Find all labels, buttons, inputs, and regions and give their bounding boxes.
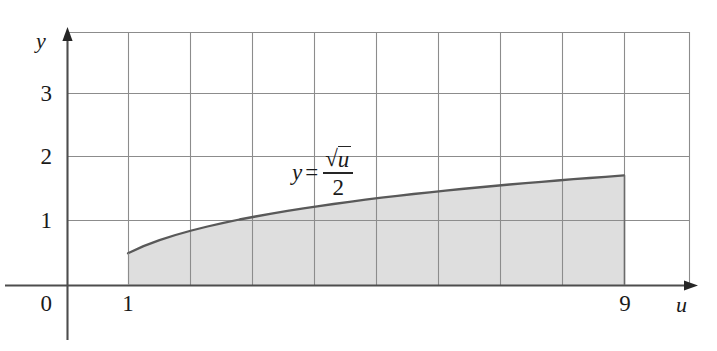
x-tick-1: 1	[113, 292, 143, 315]
y-tick-0: 0	[26, 292, 52, 315]
figure-canvas: y 3 2 1 0 1 9 u y = √ u 2	[0, 0, 717, 351]
y-tick-3: 3	[26, 82, 52, 105]
y-axis-arrowhead	[62, 27, 72, 41]
x-tick-9: 9	[610, 292, 640, 315]
y-axis-label: y	[36, 30, 46, 52]
y-tick-2: 2	[26, 145, 52, 168]
radical-group: √ u	[325, 146, 351, 171]
x-axis-arrowhead	[684, 280, 698, 290]
y-tick-1: 1	[26, 209, 52, 232]
equation-numerator: √ u	[323, 146, 353, 172]
equation-annotation: y = √ u 2	[292, 146, 353, 199]
equation-denominator: 2	[331, 174, 347, 199]
radical-radicand: u	[338, 146, 352, 171]
radical-sign-icon: √	[325, 147, 338, 172]
equation-fraction: √ u 2	[323, 146, 353, 199]
x-axis-label: u	[676, 294, 687, 316]
equation-lhs: y	[292, 161, 302, 184]
equation-equals-sign: =	[305, 161, 318, 184]
